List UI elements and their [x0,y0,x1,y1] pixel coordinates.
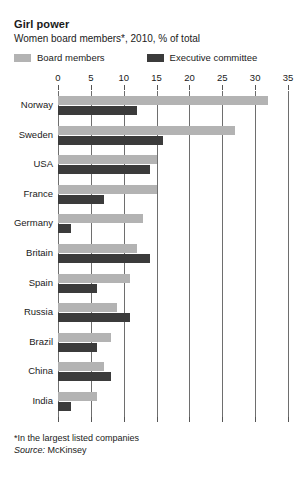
x-tick-label: 0 [55,72,60,83]
gridline [288,91,289,417]
chart-row: Brazil [58,328,288,358]
chart-row: Sweden [58,121,288,151]
category-label: China [28,365,53,377]
x-tick-mark-bottom [124,417,125,422]
chart-title: Girl power [14,18,288,31]
x-tick-mark [124,85,125,90]
chart-row: China [58,357,288,387]
x-tick-label: 20 [184,72,195,83]
category-label: Brazil [29,336,53,348]
x-tick-mark [222,85,223,90]
legend-item-executive-committee: Executive committee [147,53,258,63]
legend-item-board-members: Board members [14,53,105,63]
bar-board-members [58,96,268,105]
x-tick-label: 5 [88,72,93,83]
bar-board-members [58,303,117,312]
x-axis: 05101520253035 [58,72,288,91]
x-tick-label: 35 [283,72,294,83]
footnote-note: *In the largest listed companies [14,432,288,444]
category-label: Sweden [19,129,53,141]
x-tick-mark [255,85,256,90]
chart-row: Spain [58,269,288,299]
bar-board-members [58,214,143,223]
footnote-source: Source: McKinsey [14,444,288,456]
chart-subtitle: Women board members*, 2010, % of total [14,32,288,45]
plot-area: 05101520253035 NorwaySwedenUSAFranceGerm… [58,72,288,423]
bar-executive-committee [58,165,150,174]
x-tick-label: 15 [151,72,162,83]
x-tick-mark-bottom [91,417,92,422]
x-tick-mark-bottom [222,417,223,422]
bar-executive-committee [58,372,111,381]
x-tick-mark-bottom [58,417,59,422]
legend-swatch-executive-committee [147,54,164,62]
category-label: USA [33,158,53,170]
chart-row: Britain [58,239,288,269]
category-label: Spain [29,277,53,289]
bar-executive-committee [58,195,104,204]
x-tick-mark [157,85,158,90]
category-label: Britain [26,247,53,259]
x-tick-mark [288,85,289,90]
footnote-source-word: Source: [14,445,45,455]
legend-swatch-board-members [14,54,31,62]
chart-row: India [58,387,288,417]
x-tick-label: 10 [118,72,129,83]
bar-board-members [58,392,97,401]
x-tick-label: 30 [250,72,261,83]
x-tick-label: 25 [217,72,228,83]
legend-label-board-members: Board members [37,53,105,63]
x-tick-mark [91,85,92,90]
x-tick-mark [58,85,59,90]
bar-executive-committee [58,284,97,293]
bar-board-members [58,155,157,164]
x-tick-mark-bottom [255,417,256,422]
x-tick-mark-bottom [157,417,158,422]
bars-container: NorwaySwedenUSAFranceGermanyBritainSpain… [58,91,288,417]
bar-board-members [58,244,137,253]
x-tick-mark-bottom [288,417,289,422]
x-axis-bottom-ticks [58,417,288,423]
bar-board-members [58,274,130,283]
bar-board-members [58,362,104,371]
category-label: India [32,395,53,407]
bar-executive-committee [58,254,150,263]
category-label: Norway [21,99,53,111]
chart-row: Norway [58,91,288,121]
bar-executive-committee [58,224,71,233]
bar-board-members [58,126,235,135]
chart-figure: Girl power Women board members*, 2010, %… [0,0,302,484]
bar-executive-committee [58,313,130,322]
x-tick-mark-bottom [189,417,190,422]
bar-executive-committee [58,106,137,115]
x-tick-mark [189,85,190,90]
bar-executive-committee [58,136,163,145]
chart-row: USA [58,150,288,180]
bar-board-members [58,185,157,194]
bar-board-members [58,333,111,342]
chart-legend: Board members Executive committee [14,53,288,63]
chart-row: France [58,180,288,210]
category-label: Germany [14,217,53,229]
chart-row: Russia [58,298,288,328]
bar-executive-committee [58,343,97,352]
chart-footnotes: *In the largest listed companies Source:… [14,432,288,456]
category-label: Russia [24,306,53,318]
chart-row: Germany [58,209,288,239]
top-rule [0,0,302,3]
footnote-source-name: McKinsey [48,445,87,455]
category-label: France [23,188,53,200]
bar-executive-committee [58,402,71,411]
legend-label-executive-committee: Executive committee [170,53,258,63]
